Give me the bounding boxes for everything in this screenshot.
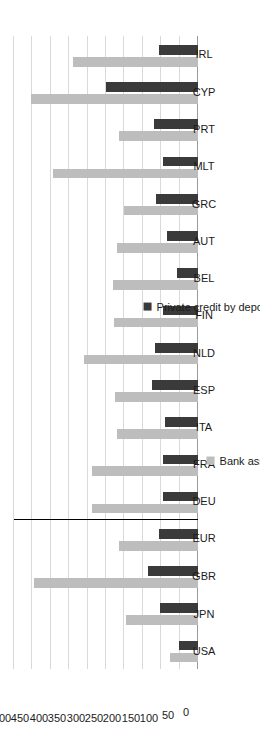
bar-private-credit-irl bbox=[159, 45, 198, 55]
category-label-eur: EUR bbox=[198, 520, 226, 557]
value-axis-labels: 050100150200250300350400450500 bbox=[14, 669, 198, 743]
bar-bank-assets-gbr bbox=[34, 578, 198, 588]
category-label-irl: IRL bbox=[198, 36, 226, 73]
bars bbox=[14, 595, 198, 632]
value-tick-label: 50 bbox=[162, 709, 174, 721]
bar-group-esp bbox=[14, 371, 198, 408]
category-label-gbr: GBR bbox=[198, 557, 226, 594]
bars bbox=[14, 557, 198, 594]
bar-bank-assets-jpn bbox=[126, 615, 198, 625]
bar-private-credit-esp bbox=[152, 380, 198, 390]
bar-bank-assets-cyp bbox=[31, 94, 198, 104]
bar-group-grc bbox=[14, 185, 198, 222]
bar-group-prt bbox=[14, 110, 198, 147]
bar-group-fra bbox=[14, 446, 198, 483]
value-tick-label: 400 bbox=[33, 709, 45, 727]
bar-bank-assets-deu bbox=[92, 504, 198, 514]
bar-bank-assets-fin bbox=[114, 318, 198, 328]
category-label-prt: PRT bbox=[198, 110, 226, 147]
bar-group-irl bbox=[14, 36, 198, 73]
category-label-grc: GRC bbox=[198, 185, 226, 222]
bars bbox=[14, 148, 198, 185]
value-tick-label: 350 bbox=[51, 709, 63, 727]
category-axis-labels: USAJPNGBREURDEUFRAITAESPNLDFINBELAUTGRCM… bbox=[198, 36, 226, 669]
category-label-deu: DEU bbox=[198, 483, 226, 520]
bars bbox=[14, 520, 198, 557]
bar-bank-assets-irl bbox=[73, 57, 198, 67]
bar-bank-assets-ita bbox=[117, 429, 198, 439]
bar-group-ita bbox=[14, 408, 198, 445]
block-separator-line bbox=[14, 519, 198, 520]
bars bbox=[14, 446, 198, 483]
value-tick-label: 100 bbox=[143, 709, 155, 727]
legend-item-bank-assets: Bank assets bbox=[237, 424, 249, 497]
bar-bank-assets-aut bbox=[117, 243, 198, 253]
legend-swatch bbox=[207, 457, 215, 465]
category-label-mlt: MLT bbox=[198, 148, 226, 185]
bars bbox=[14, 334, 198, 371]
value-tick-label: 0 bbox=[180, 709, 192, 715]
legend-label: Private credit by deposit money banks bbox=[157, 301, 260, 313]
value-tick-label: 500 bbox=[0, 709, 8, 727]
category-label-bel: BEL bbox=[198, 259, 226, 296]
bar-bank-assets-grc bbox=[124, 206, 198, 216]
bar-group-eur bbox=[14, 520, 198, 557]
bar-private-credit-jpn bbox=[160, 603, 198, 613]
bar-columns bbox=[14, 36, 198, 669]
category-label-esp: ESP bbox=[198, 371, 226, 408]
bar-private-credit-nld bbox=[155, 343, 198, 353]
bars bbox=[14, 483, 198, 520]
bar-bank-assets-nld bbox=[84, 355, 198, 365]
bar-private-credit-prt bbox=[154, 119, 198, 129]
bars bbox=[14, 185, 198, 222]
bar-bank-assets-fra bbox=[92, 466, 198, 476]
category-label-usa: USA bbox=[198, 632, 226, 669]
chart-stage: 050100150200250300350400450500 USAJPNGBR… bbox=[0, 0, 260, 743]
bar-bank-assets-esp bbox=[115, 392, 198, 402]
value-tick-label: 450 bbox=[14, 709, 26, 727]
bars bbox=[14, 408, 198, 445]
value-tick-label: 250 bbox=[88, 709, 100, 727]
bar-chart: 050100150200250300350400450500 USAJPNGBR… bbox=[0, 0, 260, 743]
bars bbox=[14, 632, 198, 669]
bar-private-credit-ita bbox=[165, 417, 198, 427]
category-label-ita: ITA bbox=[198, 408, 226, 445]
bar-group-bel bbox=[14, 259, 198, 296]
bars bbox=[14, 73, 198, 110]
value-tick-label: 300 bbox=[70, 709, 82, 727]
bar-bank-assets-prt bbox=[119, 131, 198, 141]
legend-swatch bbox=[144, 303, 152, 311]
bars bbox=[14, 259, 198, 296]
plot-area bbox=[14, 36, 198, 669]
category-label-nld: NLD bbox=[198, 334, 226, 371]
bar-group-nld bbox=[14, 334, 198, 371]
bars bbox=[14, 110, 198, 147]
legend-item-private-credit: Private credit by deposit money banks bbox=[237, 208, 249, 407]
legend-label: Bank assets bbox=[220, 455, 260, 467]
value-tick-label: 200 bbox=[106, 709, 118, 727]
bar-private-credit-gbr bbox=[148, 566, 198, 576]
bar-bank-assets-mlt bbox=[53, 169, 198, 179]
category-label-jpn: JPN bbox=[198, 595, 226, 632]
bars bbox=[14, 36, 198, 73]
bars bbox=[14, 371, 198, 408]
bar-group-mlt bbox=[14, 148, 198, 185]
bars bbox=[14, 222, 198, 259]
value-tick-label: 150 bbox=[125, 709, 137, 727]
bar-private-credit-cyp bbox=[106, 82, 198, 92]
bar-group-gbr bbox=[14, 557, 198, 594]
bar-group-jpn bbox=[14, 595, 198, 632]
bar-bank-assets-eur bbox=[119, 541, 198, 551]
category-label-cyp: CYP bbox=[198, 73, 226, 110]
bar-group-aut bbox=[14, 222, 198, 259]
bar-group-cyp bbox=[14, 73, 198, 110]
bar-group-usa bbox=[14, 632, 198, 669]
category-label-aut: AUT bbox=[198, 222, 226, 259]
bar-bank-assets-bel bbox=[113, 280, 198, 290]
bar-group-deu bbox=[14, 483, 198, 520]
chart-legend: Bank assetsPrivate credit by deposit mon… bbox=[228, 36, 258, 669]
